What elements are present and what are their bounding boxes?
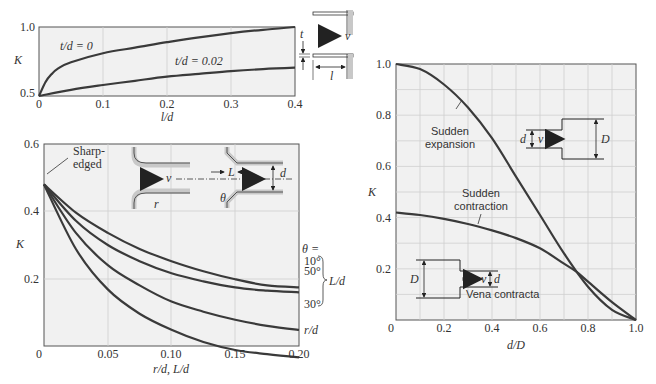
svg-text:θ: θ bbox=[220, 191, 226, 205]
chart-rounded-beveled-entrance: 0.6 0.4 0.2 0 0.05 0.10 0.15 0.20 r/d, L… bbox=[15, 137, 346, 376]
x-tick: 0.4 bbox=[288, 97, 303, 111]
annotation-edged: edged bbox=[73, 157, 102, 171]
y-tick: 0.4 bbox=[24, 204, 39, 218]
annotation-sudden-expansion-1: Sudden bbox=[431, 125, 469, 137]
y-tick: 0.6 bbox=[376, 159, 391, 173]
annotation-td-0: t/d = 0 bbox=[60, 39, 93, 53]
inset-reentrant-pipe: v t l bbox=[299, 10, 353, 83]
svg-text:r: r bbox=[154, 197, 159, 211]
chart-entrance-reentrant: 1.0 0.5 0 0.1 0.2 0.3 0.4 l/d K t/d = 0 … bbox=[13, 10, 353, 124]
y-tick: 1.0 bbox=[20, 20, 35, 34]
annotation-vena-contracta: Vena contracta bbox=[466, 288, 540, 300]
x-tick: 0.4 bbox=[485, 321, 500, 335]
x-tick: 0.10 bbox=[161, 347, 182, 361]
svg-text:d: d bbox=[280, 166, 287, 180]
x-tick: 0.05 bbox=[98, 347, 119, 361]
y-tick: 0.8 bbox=[376, 108, 391, 122]
svg-text:v: v bbox=[481, 272, 487, 286]
svg-text:d: d bbox=[520, 132, 527, 146]
x-axis-label: d/D bbox=[507, 338, 525, 352]
x-tick: 0.8 bbox=[581, 321, 596, 335]
annotation-sudden-contraction-1: Sudden bbox=[462, 187, 500, 199]
x-tick: 0 bbox=[388, 321, 394, 335]
x-tick: 0.20 bbox=[289, 347, 310, 361]
annotation-sudden-contraction-2: contraction bbox=[454, 200, 508, 212]
x-axis-label: r/d, L/d bbox=[153, 362, 190, 376]
label-L-d: L/d bbox=[328, 274, 346, 288]
y-axis-label: K bbox=[367, 185, 377, 199]
svg-text:D: D bbox=[600, 132, 610, 146]
svg-text:l: l bbox=[330, 69, 334, 83]
annotation-sharp: Sharp- bbox=[73, 144, 105, 158]
svg-text:d: d bbox=[494, 272, 501, 286]
x-tick: 0.15 bbox=[225, 347, 246, 361]
svg-text:v: v bbox=[345, 29, 351, 43]
svg-text:v: v bbox=[166, 171, 172, 185]
y-tick: 0.2 bbox=[24, 272, 39, 286]
x-tick: 0.1 bbox=[96, 97, 111, 111]
y-tick: 0.6 bbox=[24, 137, 39, 151]
svg-text:v: v bbox=[538, 132, 544, 146]
figure: 1.0 0.5 0 0.1 0.2 0.3 0.4 l/d K t/d = 0 … bbox=[0, 0, 656, 384]
x-axis-label: l/d bbox=[161, 110, 175, 124]
label-50deg: 50° bbox=[304, 264, 321, 278]
svg-text:D: D bbox=[409, 272, 419, 286]
svg-text:t: t bbox=[300, 27, 304, 41]
chart-sudden-expansion-contraction: 1.0 0.8 0.6 0.4 0.2 0 0.2 0.4 0.6 0.8 1.… bbox=[367, 57, 644, 352]
y-axis-label: K bbox=[13, 53, 23, 67]
svg-text:L: L bbox=[227, 165, 235, 179]
label-r-d: r/d bbox=[304, 323, 319, 337]
x-tick: 0.6 bbox=[533, 321, 548, 335]
x-tick: 0 bbox=[36, 97, 42, 111]
y-tick: 0.4 bbox=[376, 211, 391, 225]
x-tick: 0.3 bbox=[224, 97, 239, 111]
x-tick: 0.2 bbox=[160, 97, 175, 111]
plot-area bbox=[44, 144, 299, 346]
label-30deg: 30° bbox=[304, 297, 321, 311]
y-tick: 0.5 bbox=[20, 86, 35, 100]
y-tick: 0.2 bbox=[376, 262, 391, 276]
x-tick: 0.2 bbox=[437, 321, 452, 335]
annotation-sudden-expansion-2: expansion bbox=[425, 138, 475, 150]
y-axis-label: K bbox=[15, 237, 25, 251]
x-tick: 1.0 bbox=[629, 321, 644, 335]
annotation-td-0-02: t/d = 0.02 bbox=[175, 54, 223, 68]
x-tick: 0 bbox=[36, 347, 42, 361]
y-tick: 1.0 bbox=[376, 57, 391, 71]
